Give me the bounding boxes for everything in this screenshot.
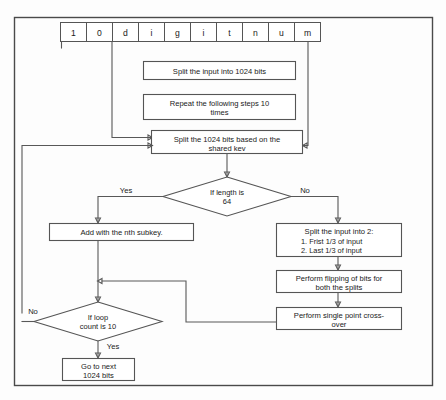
- node-label-line2: over: [332, 320, 347, 329]
- node-label: Split the input into 1024 bits: [173, 67, 267, 76]
- connector-cell-to-splitkey: [112, 42, 151, 138]
- node-split-1024: Split the input into 1024 bits: [144, 62, 296, 80]
- connector-no-branch: [291, 197, 338, 223]
- input-cell-label: n: [253, 28, 258, 38]
- node-split-into-2: Split the input into 2: 1. Frist 1/3 of …: [277, 224, 402, 257]
- input-cell-label: g: [175, 28, 180, 38]
- decision-label: If length is: [210, 188, 244, 197]
- node-label: Split the 1024 bits based on the: [174, 135, 280, 144]
- input-cell-label: u: [279, 28, 284, 38]
- input-cell-label: 1: [71, 28, 76, 38]
- node-label: Split the input into 2:: [305, 227, 374, 236]
- node-add-subkey: Add with the nth subkey.: [50, 224, 194, 241]
- edge-label-loop-no: No: [28, 307, 38, 316]
- input-cell-label: d: [123, 28, 128, 38]
- decision-label-line2: count is 10: [80, 322, 116, 331]
- node-crossover: Perform single point cross- over: [277, 308, 402, 330]
- node-list-item-1: 1. Frist 1/3 of input: [301, 237, 362, 246]
- node-label-line2: shared kev: [208, 144, 245, 153]
- connector-cellm-to-splitkey: [302, 42, 308, 146]
- decision-label-line2: 64: [223, 197, 231, 206]
- flowchart-svg: 1 0 d i g i t n u m: [0, 0, 446, 400]
- node-if-loop-10: If loop count is 10: [34, 302, 162, 341]
- input-cell-row: 1 0 d i g i t n u m: [61, 23, 321, 42]
- node-label: Repeat the following steps 10: [170, 99, 270, 108]
- input-cell-label: m: [304, 28, 311, 38]
- flowchart-canvas: 1 0 d i g i t n u m: [0, 0, 446, 400]
- node-flip-bits: Perform flipping of bits for both the sp…: [277, 271, 402, 293]
- input-cell-label: i: [203, 28, 205, 38]
- input-cell-label: i: [151, 28, 153, 38]
- decision-label: If loop: [88, 313, 108, 322]
- node-repeat-10: Repeat the following steps 10 times: [144, 95, 296, 120]
- edge-label-yes: Yes: [120, 186, 133, 195]
- edge-label-no: No: [300, 186, 310, 195]
- connector-yes-branch: [98, 197, 163, 223]
- node-split-shared-key: Split the 1024 bits based on the shared …: [152, 131, 303, 154]
- edge-label-loop-yes: Yes: [107, 342, 120, 351]
- node-label-line2: 1024 bits: [83, 371, 114, 380]
- node-label-line2: both the splits: [316, 283, 363, 292]
- node-if-length-64: If length is 64: [163, 177, 291, 216]
- node-label: Add with the nth subkey.: [80, 228, 162, 237]
- node-list-item-2: 2. Last 1/3 of input: [301, 246, 362, 255]
- node-label-line2: times: [210, 108, 228, 117]
- input-cell-label: 0: [97, 28, 102, 38]
- node-go-next: Go to next 1024 bits: [63, 359, 135, 381]
